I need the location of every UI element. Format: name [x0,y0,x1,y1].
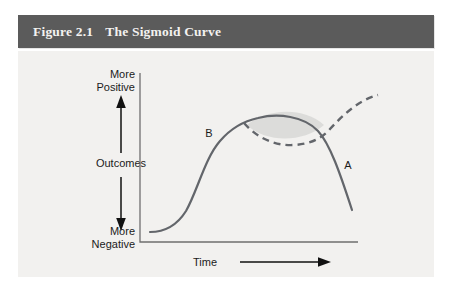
x-axis-label: Time [193,256,217,268]
y-axis-up-arrow [116,95,126,153]
y-axis-top-label-line2: Positive [96,81,135,93]
chart-axes [140,73,358,242]
y-axis-bottom-label-line2: Negative [92,238,135,250]
y-axis-bottom-label-line1: More [110,225,135,237]
x-axis-right-arrow [240,257,331,267]
y-axis-label: Outcomes [96,157,147,169]
curve-label-a: A [344,159,352,171]
sigmoid-solid-curve [150,116,352,232]
figure-header-text: Figure 2.1 The Sigmoid Curve [33,15,221,48]
figure-title: The Sigmoid Curve [105,24,221,40]
y-axis-down-arrow [116,177,126,231]
figure-header-bar: Figure 2.1 The Sigmoid Curve [18,15,434,48]
figure-body: More Positive Outcomes More Negative [18,51,434,277]
y-axis-top-label-line1: More [110,68,135,80]
figure-container: Figure 2.1 The Sigmoid Curve More Positi… [0,0,452,293]
sigmoid-chart: More Positive Outcomes More Negative [18,51,434,277]
figure-number: Figure 2.1 [33,24,93,40]
curve-label-b: B [205,127,212,139]
